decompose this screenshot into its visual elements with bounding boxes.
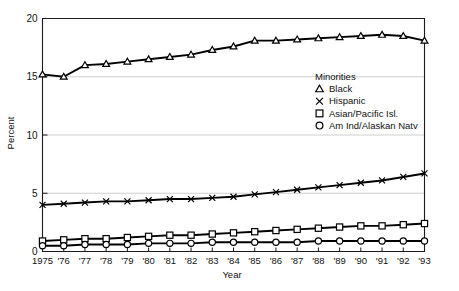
point-7-marker-square [188,232,194,238]
line-chart: 051015201975'76'77'78'79'80'81'82'83'84'… [0,0,459,291]
point-15-marker-triangle [357,33,364,39]
xtick-label-92: '92 [397,255,409,266]
point-12-marker-circle [294,239,300,245]
figure-caption [2,284,454,291]
legend-label-am-ind-alaskan-natv: Am Ind/Alaskan Natv [329,120,418,131]
legend-2-marker-square [316,110,323,117]
ytick-label-15: 15 [26,71,38,82]
ytick-label-5: 5 [32,188,38,199]
point-7-marker-triangle [188,51,195,57]
point-6-marker-triangle [166,54,173,60]
ytick-label-20: 20 [26,13,38,24]
point-1-marker-triangle [60,73,67,79]
point-10-marker-triangle [251,37,258,43]
point-9-marker-square [230,230,236,236]
point-12-marker-square [294,226,300,232]
point-9-marker-triangle [230,43,237,49]
point-13-marker-square [315,225,321,231]
xtick-label-84: '84 [227,255,239,266]
point-8-marker-circle [209,239,215,245]
point-0-marker-triangle [39,71,46,77]
point-18-marker-square [421,220,427,226]
legend-1-marker-x [316,98,323,105]
legend-label-hispanic: Hispanic [329,95,366,106]
ytick-label-10: 10 [26,130,38,141]
point-13-marker-triangle [315,35,322,41]
point-16-marker-triangle [379,31,386,37]
xtick-label-1975: 1975 [32,255,53,266]
xtick-label-86: '86 [270,255,282,266]
point-0-marker-circle [39,243,45,249]
point-11-marker-triangle [273,37,280,43]
point-2-marker-triangle [82,62,89,68]
point-4-marker-triangle [124,58,131,64]
y-axis-title: Percent [5,116,16,149]
xtick-label-91: '91 [376,255,388,266]
xtick-label-83: '83 [206,255,218,266]
point-8-marker-square [209,231,215,237]
point-12-marker-triangle [294,36,301,42]
point-14-marker-circle [337,238,343,244]
point-17-marker-circle [400,238,406,244]
xtick-label-80: '80 [142,255,154,266]
xtick-label-85: '85 [249,255,261,266]
legend-0-marker-triangle [316,85,324,92]
point-2-marker-circle [82,241,88,247]
xtick-label-76: '76 [58,255,70,266]
point-3-marker-triangle [103,61,110,67]
legend-label-black: Black [329,83,352,94]
xtick-label-89: '89 [333,255,345,266]
xtick-label-81: '81 [164,255,176,266]
series-black [39,31,428,79]
point-18-marker-triangle [421,37,428,43]
point-6-marker-circle [167,240,173,246]
point-14-marker-square [337,224,343,230]
point-15-marker-circle [358,238,364,244]
xtick-label-90: '90 [355,255,367,266]
x-axis-title: Year [222,269,241,280]
xtick-label-88: '88 [312,255,324,266]
legend-title: Minorities [315,71,356,82]
legend-3-marker-circle [316,122,323,129]
point-10-marker-circle [252,239,258,245]
point-18-marker-circle [421,238,427,244]
xtick-label-77: '77 [79,255,91,266]
xtick-label-79: '79 [121,255,133,266]
point-17-marker-triangle [400,33,407,39]
point-16-marker-circle [379,238,385,244]
xtick-label-82: '82 [185,255,197,266]
point-8-marker-triangle [209,47,216,53]
point-6-marker-square [167,232,173,238]
point-17-marker-square [400,222,406,228]
point-3-marker-circle [103,241,109,247]
point-7-marker-circle [188,240,194,246]
series-hispanic [40,170,428,207]
point-10-marker-square [252,229,258,235]
series-path [43,173,425,204]
point-4-marker-square [124,234,130,240]
point-16-marker-square [379,223,385,229]
point-9-marker-circle [230,239,236,245]
point-13-marker-circle [315,238,321,244]
chart-figure: 051015201975'76'77'78'79'80'81'82'83'84'… [0,0,459,291]
point-5-marker-circle [146,240,152,246]
legend: MinoritiesBlackHispanicAsian/Pacific Isl… [315,71,418,131]
xtick-label-78: '78 [100,255,112,266]
xtick-label-93: '93 [418,255,430,266]
point-5-marker-triangle [145,56,152,62]
point-11-marker-square [273,227,279,233]
point-4-marker-circle [124,241,130,247]
point-14-marker-triangle [336,34,343,40]
point-5-marker-square [146,233,152,239]
legend-label-asian-pacific-isl: Asian/Pacific Isl. [329,108,398,119]
point-11-marker-circle [273,239,279,245]
point-1-marker-circle [61,243,67,249]
xtick-label-87: '87 [291,255,303,266]
series-path [43,35,425,77]
point-15-marker-square [358,223,364,229]
